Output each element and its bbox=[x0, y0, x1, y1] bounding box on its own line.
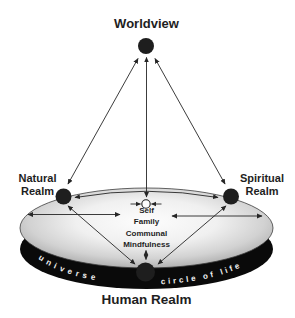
diagram-canvas: universe circle of life Worldview Natura… bbox=[0, 0, 295, 318]
center-value-family: Family bbox=[134, 217, 160, 226]
spiritual-realm-label-line1: Spiritual bbox=[240, 172, 284, 184]
natural-realm-node bbox=[56, 189, 72, 205]
human-realm-node bbox=[136, 263, 155, 282]
human-realm-label: Human Realm bbox=[101, 292, 191, 307]
realms-diagram: universe circle of life Worldview Natura… bbox=[0, 0, 295, 318]
spiritual-realm-node bbox=[223, 189, 239, 205]
natural-realm-label-line2: Realm bbox=[21, 185, 54, 197]
center-value-communal: Communal bbox=[126, 229, 167, 238]
arrow-worldview-spiritual bbox=[155, 59, 225, 185]
spiritual-realm-label-line2: Realm bbox=[245, 185, 278, 197]
arrow-worldview-natural bbox=[68, 59, 138, 185]
worldview-node bbox=[138, 38, 154, 54]
center-value-mindfulness: Mindfulness bbox=[123, 240, 170, 249]
worldview-label: Worldview bbox=[114, 16, 180, 31]
center-value-self: Self bbox=[139, 206, 154, 215]
natural-realm-label-line1: Natural bbox=[19, 172, 57, 184]
